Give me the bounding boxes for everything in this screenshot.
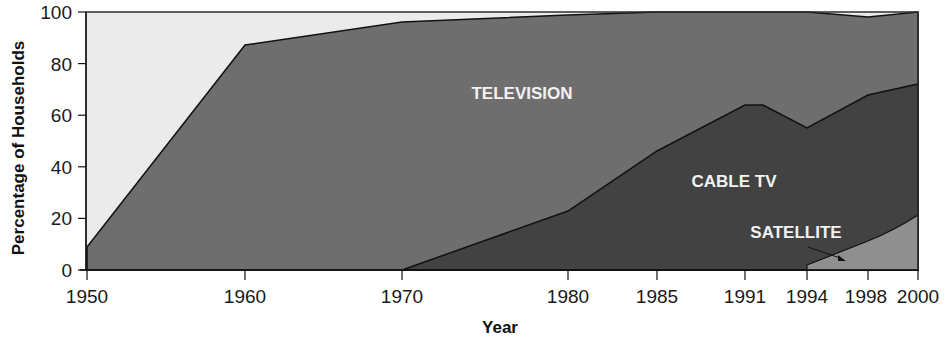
y-tick-0: 0 (61, 260, 72, 281)
y-tick-40: 40 (51, 157, 72, 178)
cable-tv-label: CABLE TV (692, 172, 778, 191)
x-tick-2000: 2000 (897, 286, 939, 307)
area-chart: 0 20 40 60 80 100 1950 1960 1970 1980 19… (0, 0, 949, 349)
television-label: TELEVISION (471, 84, 572, 103)
x-tick-1960: 1960 (224, 286, 266, 307)
satellite-label: SATELLITE (750, 223, 841, 242)
y-tick-100: 100 (40, 2, 72, 23)
x-tick-1998: 1998 (845, 286, 887, 307)
x-tick-1994: 1994 (786, 286, 829, 307)
x-ticks (87, 270, 918, 280)
x-axis-title: Year (482, 318, 518, 337)
y-tick-80: 80 (51, 54, 72, 75)
y-ticks (78, 12, 86, 270)
x-tick-1950: 1950 (66, 286, 108, 307)
y-tick-labels: 0 20 40 60 80 100 (40, 2, 72, 281)
x-tick-1970: 1970 (381, 286, 423, 307)
y-axis-title: Percentage of Households (9, 41, 28, 255)
x-tick-labels: 1950 1960 1970 1980 1985 1991 1994 1998 … (66, 286, 939, 307)
x-tick-1985: 1985 (636, 286, 678, 307)
x-tick-1980: 1980 (547, 286, 589, 307)
y-tick-60: 60 (51, 105, 72, 126)
y-tick-20: 20 (51, 208, 72, 229)
x-tick-1991: 1991 (724, 286, 766, 307)
